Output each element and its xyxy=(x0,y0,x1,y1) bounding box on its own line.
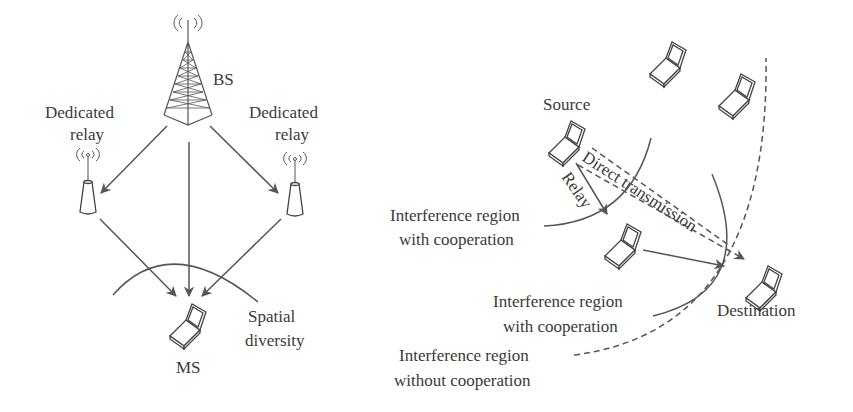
arrow-relay-to-destination xyxy=(643,250,724,266)
relay-left-label: Dedicated xyxy=(45,103,114,122)
arrow-bs-to-right-relay xyxy=(210,126,278,193)
relay-right-label-2: relay xyxy=(275,125,309,144)
other-node-laptop-icon xyxy=(650,42,686,87)
diversity-label-2: diversity xyxy=(245,331,305,350)
source-label: Source xyxy=(543,95,590,114)
base-station-tower-icon xyxy=(164,15,212,125)
other-node-laptop-icon-2 xyxy=(719,74,755,119)
region-coop-label-2b: with cooperation xyxy=(503,317,618,336)
relay-right-label: Dedicated xyxy=(249,103,318,122)
relay-path-label: Relay xyxy=(558,168,597,212)
ms-label: MS xyxy=(176,358,201,377)
spatial-diversity-arc xyxy=(113,264,258,302)
region-nocoop-label-2: without cooperation xyxy=(394,371,531,390)
cooperative-relay-diagram: BS Dedicated relay Dedicated relay xyxy=(0,0,853,412)
destination-label: Destination xyxy=(717,301,796,320)
right-panel: Source Destination Relay Direct transmis… xyxy=(390,42,796,390)
relay-laptop-icon xyxy=(605,224,641,269)
relay-left-label-2: relay xyxy=(70,125,104,144)
region-coop-label-2: Interference region xyxy=(493,292,623,311)
diversity-label: Spatial xyxy=(248,307,295,326)
source-laptop-icon xyxy=(549,121,585,166)
region-coop-label-1: Interference region xyxy=(390,206,520,225)
relay-left-icon xyxy=(77,148,100,214)
left-panel: BS Dedicated relay Dedicated relay xyxy=(45,15,318,377)
ms-laptop-icon xyxy=(170,304,206,349)
relay-right-icon xyxy=(284,152,307,216)
arrow-bs-to-left-relay xyxy=(101,126,167,193)
region-nocoop-label: Interference region xyxy=(399,346,529,365)
arrow-right-relay-to-ms xyxy=(202,219,281,296)
arrow-left-relay-to-ms xyxy=(100,219,176,296)
direct-transmission-label: Direct transmission xyxy=(579,147,701,235)
region-coop-label-1b: with cooperation xyxy=(399,230,514,249)
bs-label: BS xyxy=(213,70,234,89)
